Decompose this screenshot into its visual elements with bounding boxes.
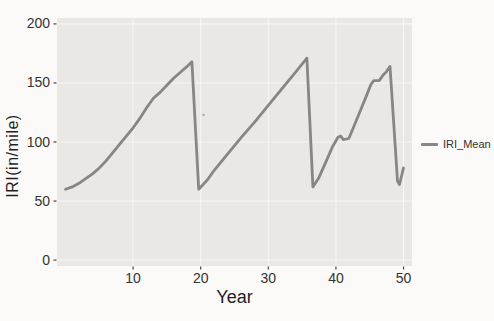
legend-label: IRI_Mean — [443, 138, 491, 150]
chart-plot-area: 0501001502001020304050 — [0, 0, 494, 321]
y-tick-label: 100 — [27, 134, 51, 150]
y-tick-label: 50 — [34, 193, 50, 209]
photo-smudge-artifact — [202, 114, 205, 116]
y-tick-label: 150 — [27, 74, 51, 90]
y-tick-label: 0 — [42, 252, 50, 268]
x-axis-title: Year — [57, 287, 412, 308]
x-tick-label: 10 — [125, 270, 141, 286]
x-tick-label: 50 — [396, 270, 412, 286]
y-tick-label: 200 — [27, 15, 51, 31]
iri-mean-chart-figure: 0501001502001020304050 IRI(in/mile) Year… — [0, 0, 494, 321]
y-axis-title: IRI(in/mile) — [4, 96, 22, 216]
legend-key-line — [421, 143, 438, 146]
x-tick-label: 20 — [193, 270, 209, 286]
legend: IRI_Mean — [421, 138, 491, 150]
x-tick-label: 40 — [328, 270, 344, 286]
x-tick-label: 30 — [261, 270, 277, 286]
